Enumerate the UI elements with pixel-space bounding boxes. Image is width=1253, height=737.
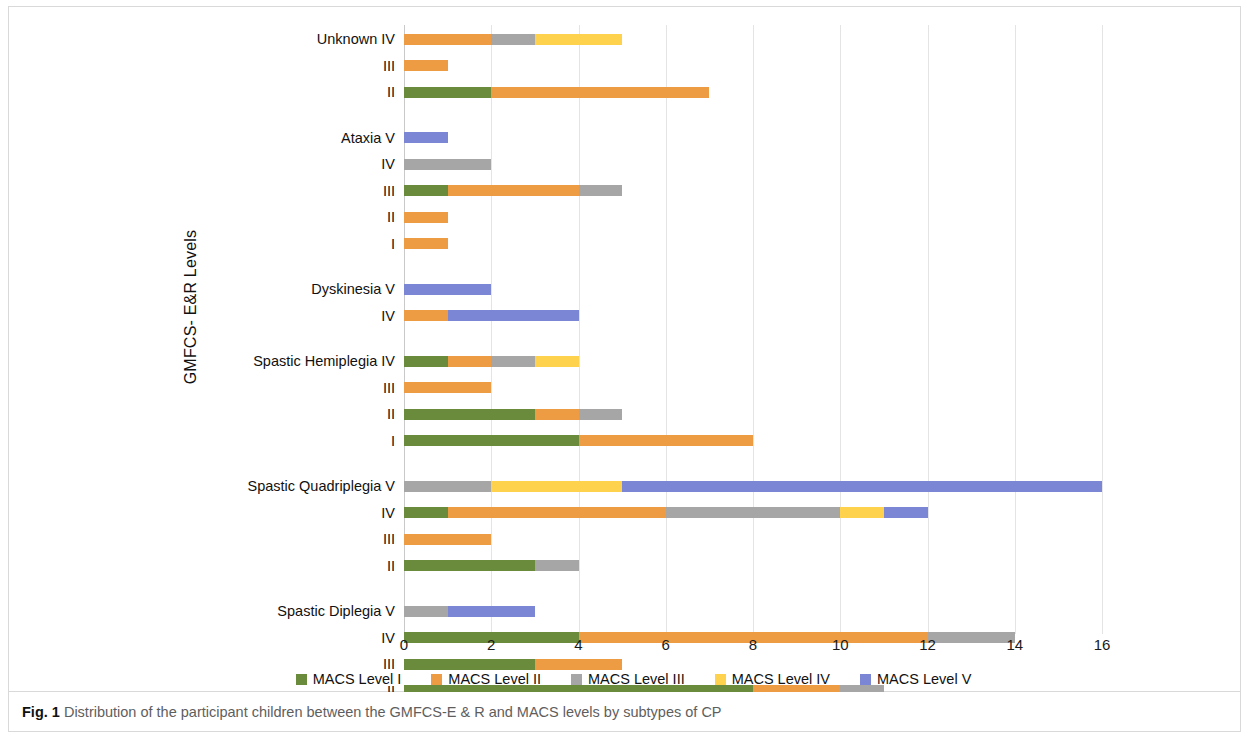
stacked-bar-row <box>404 659 622 670</box>
stacked-bar-row <box>404 212 448 223</box>
y-tick-label: Dyskinesia V <box>311 281 395 297</box>
bar-segment <box>535 659 622 670</box>
y-tick-label: Spastic Hemiplegia IV <box>253 353 395 369</box>
x-tick-label: 4 <box>574 636 582 653</box>
bar-segment <box>404 382 491 393</box>
y-tick-label: Spastic Quadriplegia V <box>248 478 396 494</box>
y-tick-label: III <box>383 380 395 396</box>
bar-segment <box>448 356 492 367</box>
bar-segment <box>404 238 448 249</box>
bar-segment <box>491 34 535 45</box>
stacked-bar-row <box>404 87 709 98</box>
stacked-bar-row <box>404 60 448 71</box>
bar-segment <box>622 481 1102 492</box>
x-tick-label: 8 <box>749 636 757 653</box>
gridline <box>840 25 841 634</box>
y-tick-label: Ataxia V <box>341 130 395 146</box>
stacked-bar-row <box>404 382 491 393</box>
figure-page: GMFCS- E&R Levels Unknown IVIIIIIAtaxia … <box>0 0 1253 737</box>
x-tick-label: 6 <box>662 636 670 653</box>
bar-segment <box>404 284 491 295</box>
bar-segment <box>491 481 622 492</box>
bar-segment <box>404 409 535 420</box>
y-tick-label: II <box>387 558 395 574</box>
gridline <box>1015 25 1016 634</box>
bar-segment <box>404 159 491 170</box>
gridline <box>666 25 667 634</box>
stacked-bar-row <box>404 356 579 367</box>
bar-segment <box>579 435 754 446</box>
legend-item[interactable]: MACS Level I <box>296 671 402 687</box>
legend-label: MACS Level IV <box>732 671 830 687</box>
bar-segment <box>666 507 841 518</box>
y-tick-label: III <box>383 656 395 672</box>
bar-segment <box>404 435 579 446</box>
legend-label: MACS Level V <box>877 671 971 687</box>
bar-segment <box>404 87 491 98</box>
y-tick-label: II <box>387 209 395 225</box>
stacked-bar-row <box>404 606 535 617</box>
y-tick-label: III <box>383 183 395 199</box>
bar-segment <box>404 659 535 670</box>
legend-label: MACS Level I <box>313 671 402 687</box>
stacked-bar-row <box>404 238 448 249</box>
x-tick-label: 12 <box>919 636 936 653</box>
y-tick-label: IV <box>381 505 395 521</box>
x-tick-label: 2 <box>487 636 495 653</box>
legend-swatch-icon <box>571 674 582 685</box>
bar-segment <box>404 34 491 45</box>
gridline <box>753 25 754 634</box>
y-tick-label: III <box>383 531 395 547</box>
gridline <box>1102 25 1103 634</box>
bar-segment <box>884 507 928 518</box>
y-tick-label: II <box>387 406 395 422</box>
bar-segment <box>535 409 579 420</box>
caption-prefix: Fig. 1 <box>22 704 60 720</box>
bar-segment <box>404 606 448 617</box>
page-left-margin <box>0 0 8 737</box>
y-tick-label: III <box>383 58 395 74</box>
legend-label: MACS Level III <box>588 671 685 687</box>
bar-segment <box>404 212 448 223</box>
y-tick-label: I <box>391 236 395 252</box>
figure-frame: GMFCS- E&R Levels Unknown IVIIIIIAtaxia … <box>8 6 1241 692</box>
legend-swatch-icon <box>860 674 871 685</box>
plot-area <box>404 25 1102 634</box>
bar-segment <box>491 356 535 367</box>
legend-swatch-icon <box>431 674 442 685</box>
gridline <box>491 25 492 634</box>
legend-item[interactable]: MACS Level III <box>571 671 685 687</box>
y-tick-label: Unknown IV <box>317 31 395 47</box>
bar-segment <box>404 481 491 492</box>
bar-segment <box>448 310 579 321</box>
bar-segment <box>404 534 491 545</box>
bar-segment <box>404 310 448 321</box>
bar-segment <box>404 60 448 71</box>
stacked-bar-row <box>404 507 928 518</box>
legend-swatch-icon <box>715 674 726 685</box>
legend-label: MACS Level II <box>448 671 541 687</box>
bar-segment <box>579 409 623 420</box>
x-tick-label: 16 <box>1094 636 1111 653</box>
bar-segment <box>404 507 448 518</box>
legend-item[interactable]: MACS Level II <box>431 671 541 687</box>
stacked-bar-row <box>404 481 1102 492</box>
figure-caption: Fig. 1 Distribution of the participant c… <box>22 704 722 720</box>
legend-item[interactable]: MACS Level V <box>860 671 971 687</box>
x-tick-label: 14 <box>1006 636 1023 653</box>
y-tick-label: IV <box>381 630 395 646</box>
bar-segment <box>404 356 448 367</box>
chart-legend: MACS Level IMACS Level IIMACS Level IIIM… <box>17 671 1250 687</box>
bar-segment <box>404 560 535 571</box>
stacked-bar-row <box>404 409 622 420</box>
bar-segment <box>404 185 448 196</box>
stacked-bar-row <box>404 132 448 143</box>
stacked-bar-row <box>404 284 491 295</box>
legend-item[interactable]: MACS Level IV <box>715 671 830 687</box>
stacked-bar-row <box>404 560 579 571</box>
caption-text: Distribution of the participant children… <box>64 704 722 720</box>
bar-segment <box>448 606 535 617</box>
x-axis-ticks: 0246810121416 <box>404 636 1102 658</box>
bar-segment <box>535 356 579 367</box>
gridline <box>579 25 580 634</box>
